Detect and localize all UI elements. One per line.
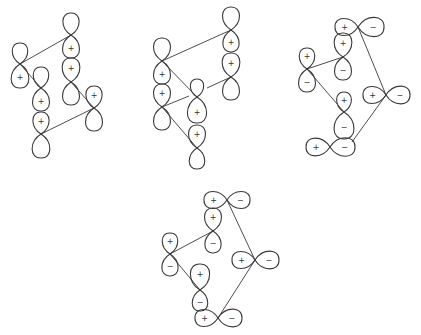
p-orbital: +− (334, 33, 352, 80)
plus-sign: + (38, 117, 45, 126)
plus-sign: + (313, 143, 320, 152)
orbital-lobe-a (63, 13, 79, 35)
orbital-diagram-figure: +++++++++++++−+−+−+−+−+−+−+−+−+−+−+− (0, 0, 421, 335)
plus-sign: + (17, 73, 24, 82)
bond-line (207, 77, 231, 88)
p-orbital: +− (306, 138, 355, 156)
minus-sign: − (237, 196, 244, 205)
plus-sign: + (341, 96, 348, 105)
plus-sign: + (159, 89, 166, 98)
p-orbital: + (63, 13, 80, 58)
plus-sign: + (238, 256, 245, 265)
p-orbital: + (154, 84, 171, 130)
p-orbital: + (33, 67, 50, 111)
orbital-lobe-b (154, 107, 171, 130)
plus-sign: + (210, 213, 217, 222)
orbitals-layer: +++++++++++++−+−+−+−+−+−+−+−+−+−+−+− (11, 7, 410, 327)
diagram-1-bonds (20, 35, 94, 134)
orbital-lobe-a (33, 67, 49, 88)
p-orbital: + (189, 125, 206, 169)
p-orbital: +− (334, 92, 354, 139)
plus-sign: + (340, 39, 347, 48)
p-orbital: +− (232, 251, 279, 269)
minus-sign: − (341, 123, 348, 132)
diagram-1: ++++++ (11, 13, 102, 158)
p-orbital: + (86, 86, 103, 131)
plus-sign: + (91, 91, 98, 100)
p-orbital: +− (204, 192, 250, 209)
plus-sign: + (38, 97, 45, 106)
minus-sign: − (304, 78, 311, 87)
p-orbital: + (222, 53, 240, 100)
plus-sign: + (197, 270, 204, 279)
minus-sign: − (341, 143, 348, 152)
plus-sign: + (201, 314, 208, 323)
p-orbital: +− (190, 264, 209, 311)
minus-sign: − (340, 66, 347, 75)
plus-sign: + (68, 44, 75, 53)
p-orbital: + (154, 38, 171, 84)
plus-sign: + (228, 59, 235, 68)
plus-sign: + (210, 196, 217, 205)
p-orbital: + (11, 43, 29, 88)
p-orbital: +− (162, 233, 178, 276)
minus-sign: − (397, 91, 404, 100)
orbital-lobe-b (223, 77, 240, 100)
minus-sign: − (210, 239, 217, 248)
plus-sign: + (68, 64, 75, 73)
bond-line (162, 107, 197, 148)
p-orbital: +− (335, 17, 384, 36)
diagram-3: +−+−+−+−+−+− (299, 17, 410, 156)
plus-sign: + (341, 23, 348, 32)
plus-sign: + (194, 130, 201, 139)
p-orbital: + (32, 112, 50, 158)
orbital-lobe-a (223, 7, 240, 30)
plus-sign: + (194, 108, 201, 117)
orbital-lobe-b (32, 134, 50, 158)
diagram-2: ++++++ (154, 7, 240, 169)
plus-sign: + (228, 38, 235, 47)
orbital-lobe-b (189, 148, 205, 169)
diagram-4: +−+−+−+−+−+− (162, 192, 279, 327)
p-orbital: + (223, 7, 240, 52)
plus-sign: + (304, 52, 311, 61)
bond-line (170, 254, 200, 290)
bond-line (358, 27, 386, 95)
orbital-lobe-a (190, 79, 203, 97)
orbital-lobe-b (63, 82, 80, 105)
minus-sign: − (167, 262, 174, 271)
p-orbital: +− (299, 48, 316, 92)
plus-sign: + (159, 70, 166, 79)
minus-sign: − (266, 256, 273, 265)
bond-line (162, 30, 231, 61)
p-orbital: +− (195, 309, 242, 327)
p-orbital: + (187, 79, 206, 123)
minus-sign: − (370, 23, 377, 32)
p-orbital: +− (363, 86, 410, 104)
minus-sign: − (197, 298, 204, 307)
bond-line (162, 96, 189, 107)
plus-sign: + (369, 91, 376, 100)
bond-line (352, 95, 386, 142)
p-orbital: +− (205, 208, 222, 253)
orbital-lobe-a (154, 38, 171, 61)
orbital-lobe-b (86, 108, 103, 131)
p-orbital: + (62, 58, 80, 105)
plus-sign: + (167, 237, 174, 246)
minus-sign: − (229, 314, 236, 323)
